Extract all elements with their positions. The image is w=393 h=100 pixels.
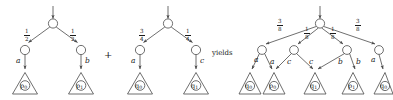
right-branch-2-probability: 1 8: [330, 27, 336, 40]
middle-leaf-0-state: q0: [135, 83, 142, 90]
middle-branch-1-probability: 1 4: [185, 29, 191, 42]
state-index: 1: [195, 85, 198, 90]
state-index: 0: [139, 85, 142, 90]
yields-operator: yields: [212, 50, 233, 57]
fraction-numerator: 1: [330, 27, 336, 33]
state-index: 0: [384, 85, 387, 90]
fraction-numerator: 1: [304, 27, 310, 33]
left-tree-graph: [13, 6, 94, 94]
state-index: 1: [314, 85, 317, 90]
left-leaf-1-state: p1: [76, 83, 83, 90]
right-action-label-3: c: [309, 58, 313, 66]
fraction-numerator: 3: [139, 29, 145, 35]
fraction-numerator: 1: [185, 29, 191, 35]
state-index: 1: [80, 85, 83, 90]
right-action-label-1: a: [270, 58, 274, 66]
middle-branch-0-probability: 3 4: [139, 29, 145, 42]
right-leaf-1-state: p0: [269, 83, 276, 90]
right-leaf-4-state: q0: [380, 83, 387, 90]
state-index: 0: [273, 85, 276, 90]
left-branch-1-probability: 1 2: [70, 29, 76, 42]
right-leaf-3-state: p1: [348, 83, 355, 90]
left-branch-0-action-label: a: [16, 57, 20, 65]
fraction-denominator: 4: [139, 37, 145, 43]
fraction-denominator: 8: [355, 27, 361, 33]
right-branch-3-probability: 3 8: [355, 19, 361, 32]
fraction-denominator: 2: [70, 37, 76, 43]
plus-operator: +: [104, 50, 112, 60]
figure-canvas: 1 2 1 2 a b p0 p1 + 3 4 1 4 a c q0 q1 yi…: [0, 0, 393, 100]
right-action-label-5: b: [356, 58, 361, 66]
fraction-numerator: 3: [277, 19, 283, 25]
right-tree-graph: [239, 6, 393, 94]
fraction-numerator: 1: [70, 29, 76, 35]
middle-tree-graph: [128, 6, 209, 94]
right-branch-0-probability: 3 8: [277, 19, 283, 32]
left-branch-0-probability: 1 2: [24, 29, 30, 42]
fraction-numerator: 3: [355, 19, 361, 25]
right-leaf-0-state: q0: [245, 83, 252, 90]
right-action-label-6: a: [371, 56, 375, 64]
fraction-denominator: 8: [330, 35, 336, 41]
left-branch-1-action-label: b: [85, 57, 90, 65]
fraction-denominator: 8: [277, 27, 283, 33]
middle-branch-1-action-label: c: [200, 57, 204, 65]
fraction-denominator: 2: [24, 37, 30, 43]
middle-leaf-1-state: q1: [191, 83, 198, 90]
fraction-denominator: 8: [304, 35, 310, 41]
right-action-label-2: c: [287, 58, 291, 66]
fraction-denominator: 4: [185, 37, 191, 43]
middle-branch-0-action-label: a: [131, 57, 135, 65]
right-action-label-0: a: [254, 56, 258, 64]
left-leaf-0-state: p0: [20, 83, 27, 90]
fraction-numerator: 1: [24, 29, 30, 35]
right-action-label-4: b: [338, 58, 343, 66]
state-index: 1: [352, 85, 355, 90]
state-index: 0: [24, 85, 27, 90]
right-leaf-2-state: q1: [310, 83, 317, 90]
state-index: 0: [249, 85, 252, 90]
right-branch-1-probability: 1 8: [304, 27, 310, 40]
